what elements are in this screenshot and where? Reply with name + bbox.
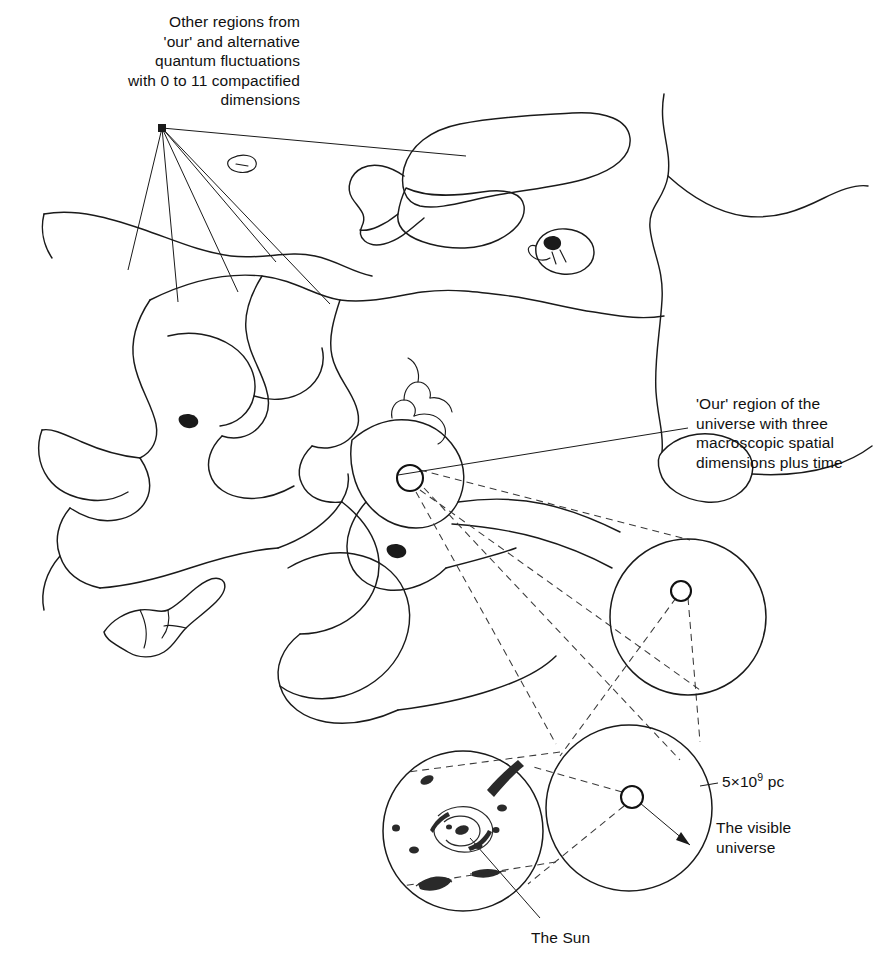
other-regions-label: Other regions from 'our' and alternative… — [20, 12, 300, 110]
our-region-line-1: 'Our' region of the — [696, 395, 820, 412]
our-region-label: 'Our' region of the universe with three … — [696, 394, 876, 472]
scale-multiplier: × — [731, 773, 740, 790]
scale-value: 5 — [722, 773, 731, 790]
the-sun-label: The Sun — [531, 928, 590, 948]
our-region-line-3: macroscopic spatial — [696, 434, 834, 451]
scale-unit: pc — [768, 773, 785, 790]
visible-universe-line-1: The visible — [716, 819, 791, 836]
other-regions-line-5: dimensions — [221, 91, 300, 108]
visible-universe-line-2: universe — [716, 839, 775, 856]
scale-exponent: 9 — [757, 771, 763, 783]
visible-universe-label: The visible universe — [716, 818, 866, 857]
other-regions-line-4: with 0 to 11 compactified — [128, 72, 300, 89]
scale-label: 5×109 pc — [722, 772, 784, 792]
our-region-line-2: universe with three — [696, 415, 828, 432]
our-region-line-4: dimensions plus time — [696, 454, 843, 471]
other-regions-line-1: Other regions from — [169, 13, 300, 30]
scale-base: 10 — [740, 773, 757, 790]
other-regions-line-2: 'our' and alternative — [164, 33, 300, 50]
other-regions-line-3: quantum fluctuations — [155, 52, 300, 69]
